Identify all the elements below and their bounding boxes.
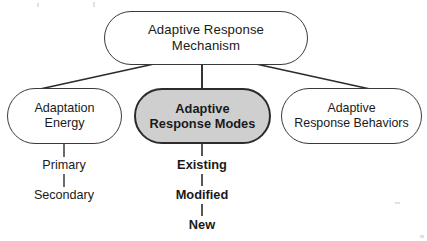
node-label: Adaptive Response Modes [146,101,260,131]
node-adaptive-response-modes[interactable]: Adaptive Response Modes [134,88,271,144]
node-label: Adaptive Response Mechanism [144,22,268,53]
leaf-primary: Primary [42,158,85,172]
leaf-new: New [189,217,215,232]
scan-speckle [420,235,424,238]
edge-root-to-adaptation-energy [40,64,154,89]
node-label: Adaptive Response Behaviors [290,101,412,130]
leaf-existing: Existing [177,157,227,172]
node-label: Adaptation Energy [30,101,98,131]
node-adaptive-response-mechanism[interactable]: Adaptive Response Mechanism [104,11,308,65]
leaf-modified: Modified [176,187,229,202]
diagram-canvas: Adaptive Response Mechanism Adaptation E… [0,0,427,241]
edge-root-to-adaptive-response-behaviors [256,64,370,89]
node-adaptation-energy[interactable]: Adaptation Energy [7,88,122,144]
scan-speckle [93,2,95,7]
scan-speckle [37,3,39,7]
leaf-secondary: Secondary [34,188,94,202]
scan-speckle [395,202,400,204]
node-adaptive-response-behaviors[interactable]: Adaptive Response Behaviors [281,88,422,144]
